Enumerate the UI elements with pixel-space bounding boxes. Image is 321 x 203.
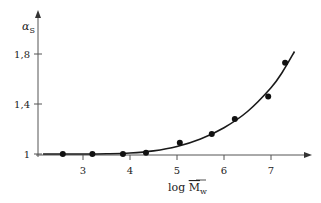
x-tick-label: 4: [127, 165, 133, 176]
x-tick-label: 5: [174, 165, 180, 176]
y-tick-label: 1,4: [14, 99, 30, 110]
x-tick-label: 3: [80, 165, 86, 176]
axes: [34, 14, 308, 160]
data-point: [143, 150, 149, 156]
y-axis-title: αS: [22, 20, 35, 35]
x-tick-label: 6: [221, 165, 227, 176]
data-point: [265, 94, 271, 100]
y-tick-label: 1: [24, 149, 30, 160]
x-tick-label: 7: [268, 165, 274, 176]
data-point: [89, 151, 95, 157]
y-tick-label: 1,8: [14, 49, 30, 60]
data-point: [282, 60, 288, 66]
data-point: [232, 116, 238, 122]
fit-curve-group: [43, 52, 294, 155]
x-axis-title: log Mw: [168, 181, 207, 196]
axis-labels: 3456711,41,8αSlog Mw: [14, 20, 274, 196]
chart: 3456711,41,8αSlog Mw: [0, 0, 321, 203]
fit-curve: [43, 52, 294, 155]
data-point: [60, 151, 66, 157]
data-point: [209, 131, 215, 137]
data-point: [177, 140, 183, 146]
data-point: [120, 151, 126, 157]
data-points: [60, 60, 288, 157]
